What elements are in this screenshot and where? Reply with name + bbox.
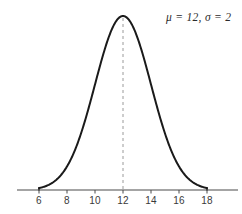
x-axis-tick-label-12: 12 (111, 195, 135, 206)
x-axis-tick-label-10: 10 (83, 195, 107, 206)
x-axis-tick-label-14: 14 (139, 195, 163, 206)
x-axis-tick-label-18: 18 (195, 195, 219, 206)
x-axis-tick-label-16: 16 (167, 195, 191, 206)
parameter-annotation: μ = 12, σ = 2 (166, 11, 231, 23)
plot-canvas (0, 0, 242, 214)
normal-distribution-figure: 681012141618 μ = 12, σ = 2 (0, 0, 242, 214)
x-axis-tick-label-8: 8 (55, 195, 79, 206)
x-axis-tick-label-6: 6 (27, 195, 51, 206)
